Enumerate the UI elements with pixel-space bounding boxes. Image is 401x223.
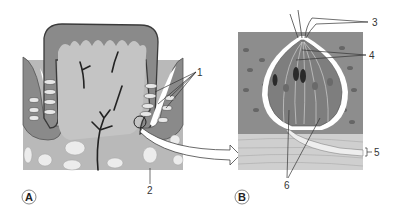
callout-5: 5 [374, 147, 380, 158]
callout-1: 1 [197, 67, 203, 78]
diagram-canvas: 1 2 A [0, 0, 401, 223]
panel-a: 1 2 A [22, 24, 203, 204]
callout-3: 3 [372, 17, 378, 28]
panel-a-label: A [25, 191, 33, 203]
panel-b-label: B [238, 191, 246, 203]
callout-6: 6 [284, 180, 290, 191]
callout-4: 4 [369, 50, 375, 61]
callout-2: 2 [147, 185, 153, 196]
panel-b: 3 4 5 6 B [235, 10, 380, 204]
